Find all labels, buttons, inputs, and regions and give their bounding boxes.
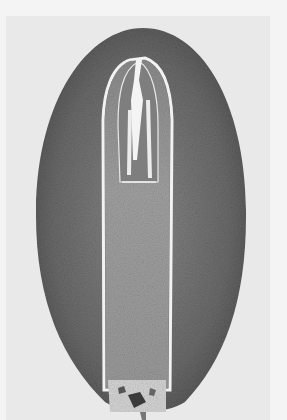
base-tissue bbox=[108, 380, 166, 420]
micrograph-frame bbox=[0, 0, 287, 420]
embryo bbox=[105, 60, 170, 388]
seed-section-illustration bbox=[0, 0, 287, 420]
